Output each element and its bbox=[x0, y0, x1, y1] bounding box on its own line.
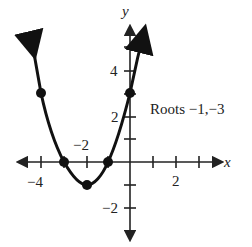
y-axis-label: y bbox=[120, 3, 129, 19]
tick-label-neg4: −4 bbox=[27, 174, 43, 190]
parabola bbox=[31, 40, 141, 185]
tick-label-y4: 4 bbox=[110, 63, 118, 79]
roots-annotation: Roots −1,−3 bbox=[150, 101, 224, 117]
y-axis bbox=[124, 30, 136, 236]
point-vertex bbox=[82, 180, 92, 190]
point-0-3 bbox=[125, 88, 135, 98]
point-root-neg3 bbox=[59, 157, 69, 167]
point-neg4-3 bbox=[36, 88, 46, 98]
tick-label-y2: 2 bbox=[111, 109, 119, 125]
tick-label-yneg2: −2 bbox=[102, 200, 118, 216]
tick-label-2: 2 bbox=[172, 173, 180, 189]
point-root-neg1 bbox=[103, 157, 113, 167]
parabola-plot: x y −4 −2 2 4 2 −2 Roots −1,−3 bbox=[0, 0, 252, 247]
x-axis bbox=[22, 156, 218, 168]
x-axis-label: x bbox=[223, 154, 231, 170]
tick-label-neg2: −2 bbox=[73, 137, 89, 153]
